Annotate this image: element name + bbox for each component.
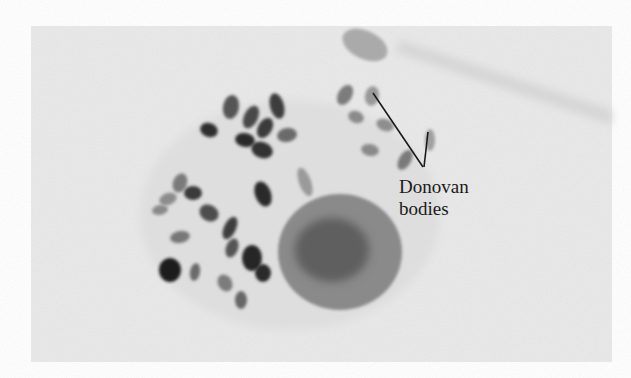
donovan-body — [255, 264, 271, 282]
donovan-body — [235, 291, 247, 309]
cell-nucleus — [278, 194, 402, 310]
micrograph-image — [0, 0, 631, 378]
annotation-label-line2: bodies — [399, 198, 449, 220]
donovan-body — [184, 186, 202, 200]
micrograph-figure: Donovan bodies — [0, 0, 631, 378]
annotation-label-line1: Donovan — [399, 176, 469, 198]
donovan-body — [159, 258, 181, 282]
